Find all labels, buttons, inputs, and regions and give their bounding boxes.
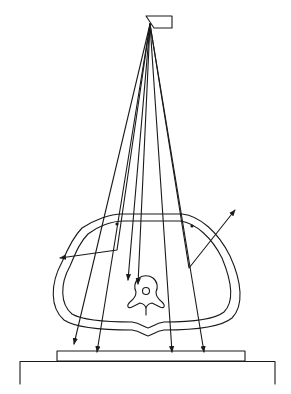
- vertebra-icon: [128, 276, 164, 315]
- beam-primary-1: [74, 24, 150, 344]
- xray-scatter-diagram: [0, 0, 291, 394]
- film-receptor: [57, 351, 245, 361]
- beam-primary-4: [150, 24, 204, 352]
- marker-dot-right: [190, 224, 193, 227]
- table: [20, 362, 275, 385]
- beam-scatter-left: [60, 24, 150, 258]
- body-outline: [53, 214, 240, 336]
- beam-scatter-right: [150, 24, 235, 268]
- beam-primary-3: [150, 24, 172, 352]
- beam-lines: [60, 24, 235, 352]
